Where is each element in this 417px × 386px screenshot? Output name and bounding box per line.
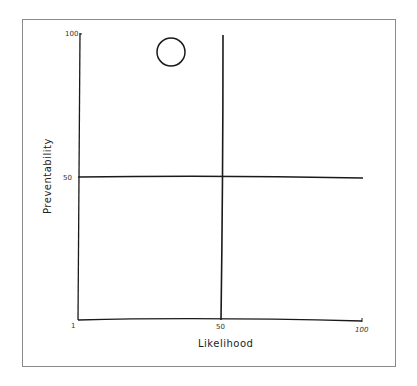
y-tick-label-100: 100 <box>65 30 78 38</box>
x-axis <box>78 319 362 321</box>
y-axis-title: Preventability <box>42 138 53 214</box>
data-point-circle <box>157 38 185 66</box>
y-tick-label-50: 50 <box>63 174 72 182</box>
x-axis-title: Likelihood <box>198 338 253 349</box>
horizontal-divider <box>78 176 363 178</box>
x-tick-label-1: 1 <box>71 322 75 330</box>
vertical-divider <box>221 35 223 320</box>
x-tick-label-100: 100 <box>355 326 368 334</box>
x-tick-label-50: 50 <box>216 323 225 331</box>
